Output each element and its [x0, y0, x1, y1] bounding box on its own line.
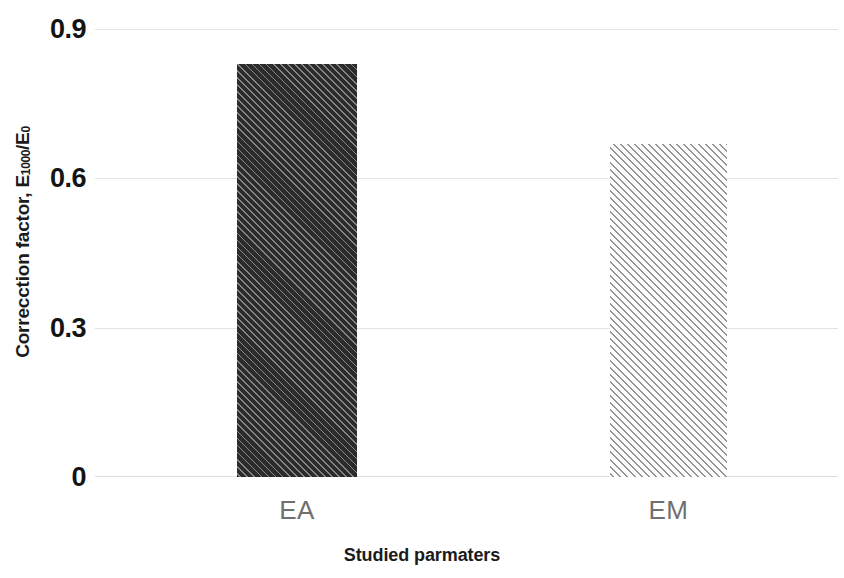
x-axis-title: Studied parmaters — [0, 545, 844, 566]
y-tick-label-1: 0.6 — [34, 165, 86, 192]
x-category-label-ea: EA — [237, 497, 357, 523]
y-axis-title-main: Correcction factor, E — [12, 175, 34, 358]
bar-chart: Correcction factor, E1000/E0 0.9 0.6 0.3… — [0, 0, 844, 578]
x-category-label-em: EM — [610, 497, 727, 523]
bar-em — [610, 144, 727, 478]
y-tick-label-3: 0 — [34, 464, 86, 491]
bar-ea — [237, 64, 357, 477]
gridline-0.9 — [95, 29, 838, 30]
y-axis-title-subscript-0: 0 — [19, 126, 33, 132]
y-tick-label-2: 0.3 — [34, 315, 86, 342]
plot-area — [95, 29, 838, 477]
y-axis-title-subscript-1000: 1000 — [19, 150, 33, 175]
y-axis-tick-labels: 0.9 0.6 0.3 0 — [34, 0, 86, 578]
y-axis-title-mid: /E — [12, 132, 34, 150]
y-tick-label-0: 0.9 — [34, 16, 86, 43]
